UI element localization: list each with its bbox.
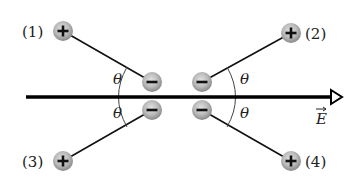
svg-text:E: E [315, 110, 327, 128]
theta-label: θ [240, 104, 249, 122]
negative-charge-1 [142, 72, 162, 92]
theta-label: θ [113, 104, 122, 122]
positive-charge-3 [53, 151, 73, 171]
field-arrowhead-icon [331, 90, 342, 104]
positive-charge-4 [281, 151, 301, 171]
negative-charge-3 [142, 100, 162, 120]
dipoles-diagram: E (1)(2)(3)(4)θθθθ [0, 0, 360, 181]
field-label: E [315, 107, 327, 128]
positive-charge-1 [53, 21, 73, 41]
dipole-rod-3 [63, 110, 152, 161]
theta-label: θ [240, 70, 249, 88]
dipole-label-1: (1) [22, 23, 43, 41]
electric-field-arrow: E [26, 90, 342, 128]
positive-charge-2 [281, 23, 301, 43]
theta-label: θ [113, 70, 122, 88]
dipole-label-3: (3) [22, 153, 43, 171]
dipole-label-2: (2) [305, 25, 326, 43]
dipole-rod-1 [63, 31, 152, 82]
negative-charge-2 [192, 72, 212, 92]
negative-charge-4 [192, 100, 212, 120]
dipole-label-4: (4) [305, 153, 326, 171]
